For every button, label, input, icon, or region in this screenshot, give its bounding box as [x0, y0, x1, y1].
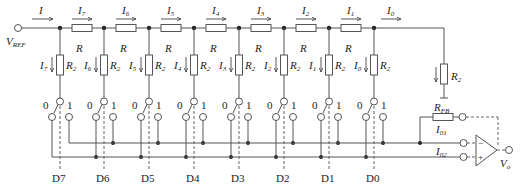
- series-current-6: I6: [116, 4, 136, 19]
- branch-d3: I3 R2 0 1: [218, 26, 256, 170]
- branch-d6: I6 R2 0 1: [83, 26, 121, 170]
- svg-text:1: 1: [111, 99, 117, 111]
- svg-text:D4: D4: [186, 172, 200, 184]
- output-buses: [52, 143, 460, 157]
- svg-text:I3: I3: [256, 4, 265, 18]
- svg-text:I0: I0: [353, 59, 362, 73]
- svg-text:VREF: VREF: [6, 35, 26, 49]
- bit-labels: D7 D6 D5 D4 D3 D2 D1 D0: [52, 172, 380, 184]
- svg-text:D0: D0: [366, 172, 380, 184]
- series-current-3: I3: [251, 4, 271, 19]
- switch-d7-pos1: [66, 114, 73, 121]
- svg-text:R: R: [75, 42, 83, 54]
- svg-text:Vo: Vo: [500, 157, 511, 171]
- svg-text:1: 1: [336, 99, 342, 111]
- svg-text:R2: R2: [65, 59, 77, 73]
- terminating-resistor: R2: [436, 64, 462, 98]
- svg-text:I0: I0: [386, 4, 395, 18]
- branch-d4: I4 R2 0 1: [173, 26, 211, 170]
- svg-text:R2: R2: [109, 59, 121, 73]
- svg-text:D7: D7: [52, 172, 66, 184]
- series-current-labels: I7 I6 I5 I4 I3 I2 I1 I0: [72, 4, 401, 19]
- svg-text:RFB: RFB: [433, 101, 450, 115]
- branch-d5: I5 R2 0 1: [128, 26, 166, 170]
- svg-text:0: 0: [312, 99, 318, 111]
- svg-text:R: R: [119, 42, 127, 54]
- svg-text:I1: I1: [346, 4, 354, 18]
- svg-text:1: 1: [156, 99, 162, 111]
- svg-text:1: 1: [381, 99, 387, 111]
- svg-text:D6: D6: [96, 172, 110, 184]
- svg-text:0: 0: [222, 99, 228, 111]
- svg-text:D3: D3: [231, 172, 245, 184]
- svg-text:I02: I02: [435, 145, 447, 159]
- svg-text:R2: R2: [334, 59, 346, 73]
- input-current-arrow: I: [32, 4, 53, 19]
- svg-text:I4: I4: [211, 4, 220, 18]
- svg-text:R2: R2: [289, 59, 301, 73]
- svg-text:I6: I6: [83, 59, 92, 73]
- op-amp: − + Vo I02: [435, 135, 513, 171]
- svg-text:1: 1: [291, 99, 297, 111]
- svg-text:R: R: [209, 42, 217, 54]
- vref-terminal: VREF: [6, 25, 60, 50]
- svg-text:D5: D5: [141, 172, 155, 184]
- svg-text:D1: D1: [321, 172, 334, 184]
- svg-text:0: 0: [43, 99, 49, 111]
- switch-d7-pos0: [49, 114, 56, 121]
- svg-text:R2: R2: [154, 59, 166, 73]
- switch-d7-common: [57, 98, 64, 105]
- svg-text:0: 0: [177, 99, 183, 111]
- svg-text:R: R: [164, 42, 172, 54]
- svg-text:0: 0: [87, 99, 93, 111]
- svg-text:−: −: [478, 138, 483, 148]
- svg-text:I7: I7: [39, 59, 48, 73]
- svg-text:1: 1: [246, 99, 252, 111]
- svg-text:I2: I2: [263, 59, 272, 73]
- svg-text:I7: I7: [77, 4, 86, 18]
- svg-text:I01: I01: [435, 123, 447, 137]
- svg-text:R2: R2: [379, 59, 391, 73]
- vout-terminal: [506, 147, 513, 154]
- svg-text:I5: I5: [128, 59, 137, 73]
- svg-text:+: +: [478, 152, 483, 162]
- branch-d1: I1 R2 0 1: [308, 26, 346, 170]
- svg-text:1: 1: [201, 99, 207, 111]
- r2r-ladder-dac-diagram: VREF I I7 I6 I5 I4 I3 I2 I1 I0 R R R R R: [0, 0, 522, 190]
- series-current-7: I7: [72, 4, 92, 19]
- branch-d0: I0 R2 0 1: [353, 26, 391, 170]
- svg-text:R2: R2: [450, 70, 462, 84]
- branch-d2: I2 R2 0 1: [263, 26, 301, 170]
- series-resistor-labels: R R R R R R R: [75, 42, 352, 54]
- series-current-5: I5: [161, 4, 181, 19]
- svg-text:R2: R2: [244, 59, 256, 73]
- svg-text:0: 0: [267, 99, 273, 111]
- svg-text:I4: I4: [173, 59, 182, 73]
- svg-text:0: 0: [132, 99, 138, 111]
- svg-text:I3: I3: [218, 59, 227, 73]
- svg-text:I1: I1: [308, 59, 316, 73]
- feedback-resistor: RFB I01: [418, 101, 498, 146]
- svg-text:I2: I2: [301, 4, 310, 18]
- svg-text:R: R: [254, 42, 262, 54]
- svg-text:I5: I5: [166, 4, 175, 18]
- svg-text:I6: I6: [121, 4, 130, 18]
- branch-d7: I7 R2 0 1: [39, 26, 77, 170]
- svg-text:I: I: [38, 4, 44, 16]
- svg-text:R2: R2: [199, 59, 211, 73]
- series-current-2: I2: [296, 4, 316, 19]
- svg-text:D2: D2: [276, 172, 289, 184]
- series-current-4: I4: [206, 4, 226, 19]
- series-current-1: I1: [341, 4, 361, 19]
- svg-text:1: 1: [67, 99, 73, 111]
- svg-text:R: R: [299, 42, 307, 54]
- series-current-0: I0: [381, 4, 401, 19]
- svg-text:R: R: [344, 42, 352, 54]
- svg-text:0: 0: [357, 99, 363, 111]
